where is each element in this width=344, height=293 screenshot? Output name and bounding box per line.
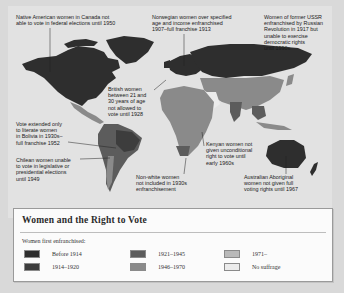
legend-swatch bbox=[24, 263, 40, 271]
legend-swatch bbox=[224, 250, 240, 258]
annotation-kenya: Kenyan women not given unconditional rig… bbox=[206, 141, 252, 166]
legend-title: Women and the Right to Vote bbox=[22, 215, 147, 225]
annotation-australia: Australian Aboriginal women not given fu… bbox=[244, 174, 298, 193]
legend-swatch bbox=[130, 263, 146, 271]
annotation-chile: Chilean women unable to vote in legislat… bbox=[16, 157, 71, 182]
legend-label: 1921–1945 bbox=[158, 250, 185, 258]
map-figure: Native American women in Canada not able… bbox=[0, 0, 344, 293]
legend-label: 1946–1970 bbox=[158, 263, 185, 271]
legend-swatch bbox=[24, 250, 40, 258]
legend-subtitle: Women first enfranchised: bbox=[22, 238, 86, 244]
map-legend: Women and the Right to Vote Women first … bbox=[13, 208, 333, 282]
legend-swatch bbox=[224, 263, 240, 271]
legend-label: 1971– bbox=[252, 250, 267, 258]
annotation-norway: Norwegian women over specified age and i… bbox=[152, 14, 231, 33]
legend-swatch bbox=[130, 250, 146, 258]
annotation-canada: Native American women in Canada not able… bbox=[16, 14, 115, 26]
region-north-america bbox=[22, 46, 120, 106]
legend-divider bbox=[20, 232, 326, 233]
legend-label: 1914–1920 bbox=[52, 263, 79, 271]
annotation-ussr: Women of former USSR enfranchised by Rus… bbox=[264, 14, 323, 51]
legend-label: No suffrage bbox=[252, 263, 280, 271]
legend-label: Before 1914 bbox=[52, 250, 82, 258]
annotation-bolivia: Vote extended only to literate women in … bbox=[16, 121, 62, 146]
annotation-britain: British women between 21 and 30 years of… bbox=[108, 86, 146, 117]
world-map: Native American women in Canada not able… bbox=[8, 6, 332, 218]
annotation-south-africa: Non-white women not included in 1930s en… bbox=[136, 174, 187, 193]
